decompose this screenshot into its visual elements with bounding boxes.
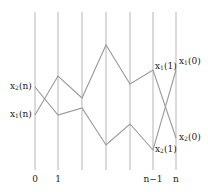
tick-label-0: 0 <box>32 175 38 184</box>
diagram-canvas: x2(n)x1(n)x1(1)x1(0)x2(1)x2(0) 01n−1n <box>0 0 208 192</box>
label-x1-1-top: x1(1) <box>155 62 177 71</box>
diagram-graphics <box>0 0 208 192</box>
tick-label-1: 1 <box>55 175 61 184</box>
label-x2-1-bottom: x2(1) <box>155 145 177 154</box>
label-x1-0-top: x1(0) <box>179 57 201 66</box>
label-x1-n: x1(n) <box>10 110 32 119</box>
label-x2-0-bottom: x2(0) <box>179 133 201 142</box>
label-x2-n: x2(n) <box>10 82 32 91</box>
tick-label-2: n−1 <box>143 175 162 184</box>
tick-label-3: n <box>173 175 179 184</box>
